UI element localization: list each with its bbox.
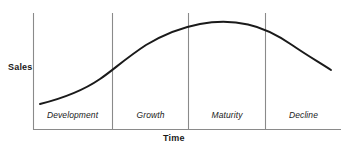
chart-plot-area	[0, 0, 349, 150]
sales-curve-line	[40, 22, 331, 104]
stage-label-decline: Decline	[266, 110, 341, 120]
stage-label-growth: Growth	[113, 110, 188, 120]
stage-label-development: Development	[33, 110, 112, 120]
product-life-cycle-chart: Sales Time Development Growth Maturity D…	[0, 0, 349, 150]
x-axis-label: Time	[163, 133, 185, 143]
stage-label-maturity: Maturity	[189, 110, 265, 120]
y-axis-label: Sales	[8, 62, 33, 72]
